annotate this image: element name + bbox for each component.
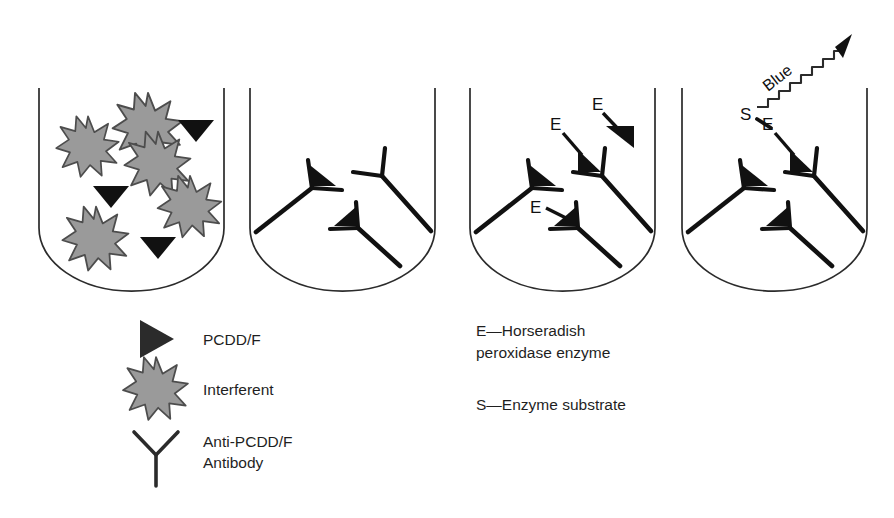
immunoassay-diagram: E E E [0,0,894,518]
legend-enzyme-line2: peroxidase enzyme [476,344,610,361]
analyte-triangle-icon [766,206,789,226]
antibody-arm [330,228,358,229]
antibody-stem [256,188,312,232]
antibody-arm [744,188,774,190]
antibody-arm [602,148,605,176]
legend-left: PCDD/F Interferent Anti-PCDD/F Antibody [123,320,293,486]
analyte-triangle-icon [140,237,176,259]
antibody-arm [785,172,814,176]
enzyme-label: E [530,198,541,217]
antibody-stem [814,176,863,231]
panel-3-enzyme: E E E [470,88,655,291]
legend-item-antibody: Anti-PCDD/F Antibody [134,432,293,486]
antibody-stem [602,176,651,231]
antibody-enzyme-target: E [550,115,651,231]
analyte-triangle-icon [334,206,357,226]
enzyme-wedge-icon [606,126,634,148]
analyte-triangle-icon [93,186,129,208]
enzyme-label: E [550,115,561,134]
legend-right: E—Horseradish peroxidase enzyme S—Enzyme… [476,322,626,413]
antibody-empty [353,148,431,231]
blue-signal-arrow: Blue [757,34,852,107]
antibody-arm [550,228,578,229]
enzyme-arrow-shaft [546,208,566,218]
analyte-triangle-icon [531,166,556,186]
antibody-bound [256,160,342,232]
antibody-bound [476,160,562,232]
analyte-triangle-icon [743,166,768,186]
antibody-signal-source: E S [740,105,863,231]
substrate-label: S [740,105,751,124]
panel-1-sample [39,88,224,291]
antibody-bound [762,202,832,266]
legend-label-antibody-line1: Anti-PCDD/F [203,433,293,450]
enzyme-label: E [592,95,603,114]
panel-4-signal: E S Blue [682,34,867,291]
legend-label-antibody-line2: Antibody [203,454,264,471]
antibody-arm [762,228,790,229]
antibody-arm [382,148,385,176]
antibody-arm [573,172,602,176]
free-enzyme: E [592,95,634,148]
legend-item-interferent: Interferent [123,357,274,420]
antibody-stem [790,228,832,266]
antibody-arm [312,188,342,190]
antibody-y-icon [134,432,178,455]
antibody-arm [814,148,817,176]
antibody-enzyme-target: E [530,198,620,266]
antibody-bound [330,202,400,266]
enzyme-arrow-shaft [563,133,582,155]
signal-arrowhead [835,34,852,58]
analyte-triangle-icon [178,120,214,142]
panel-2-binding [250,88,435,291]
interferent-starburst-icon [123,357,188,420]
analyte-triangle-icon [311,166,336,186]
legend-substrate-line1: S—Enzyme substrate [476,396,626,413]
antibody-stem [578,228,620,266]
legend-label-analyte: PCDD/F [203,331,261,348]
interferent-starburst-icon [62,207,128,271]
antibody-bound [688,160,774,232]
antibody-stem [358,228,400,266]
interferent-starburst-icon [56,116,119,176]
legend-label-interferent: Interferent [203,381,274,398]
analyte-triangle-icon [140,320,174,358]
legend-enzyme-line1: E—Horseradish [476,322,585,339]
antibody-arm [532,188,562,190]
legend-item-analyte: PCDD/F [140,320,261,358]
antibody-arm [353,172,382,176]
enzyme-arrow-shaft [775,133,794,155]
antibody-stem [476,188,532,232]
antibody-stem [382,176,431,231]
antibody-stem [688,188,744,232]
